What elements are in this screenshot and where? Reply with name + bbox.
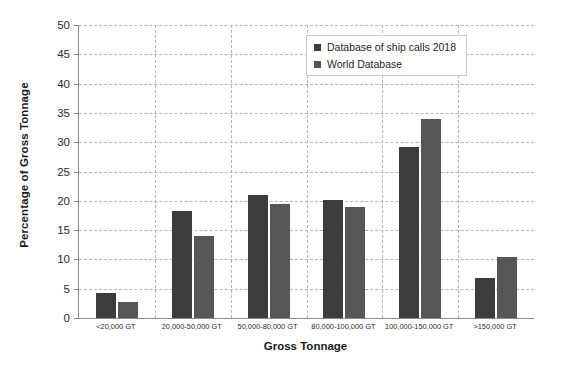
y-axis-tick-label: 0 [64,312,79,324]
legend-swatch-icon [314,44,321,51]
y-axis-tick-label: 15 [57,224,79,236]
bar-group [231,25,307,318]
bar-group [458,25,534,318]
legend-label: Database of ship calls 2018 [327,41,456,53]
bar-group [155,25,231,318]
x-axis-tick-label: >150,000 GT [457,322,533,331]
legend-label: World Database [327,58,402,70]
y-axis-tick-label: 45 [57,48,79,60]
x-axis-tick-label: 100,000-150,000 GT [381,322,457,331]
x-axis-tick-label: 80,000-100,000 GT [305,322,381,331]
bar [96,293,116,318]
y-axis-title: Percentage of Gross Tonnage [14,0,34,330]
y-axis-tick-label: 25 [57,166,79,178]
bar [399,147,419,318]
bar [194,236,214,318]
x-axis-title: Gross Tonnage [78,340,533,352]
chart-legend: Database of ship calls 2018World Databas… [306,35,467,76]
bar [345,207,365,318]
y-axis-tick-label: 5 [64,283,79,295]
y-axis-tick-label: 40 [57,78,79,90]
legend-swatch-icon [314,61,321,68]
y-axis-tick-label: 50 [57,19,79,31]
x-axis-tick-label: 50,000-80,000 GT [230,322,306,331]
y-axis-tick-label: 20 [57,195,79,207]
bar [497,257,517,318]
bar [172,211,192,318]
x-axis-tick-label: 20,000-50,000 GT [154,322,230,331]
bar [248,195,268,318]
x-axis-tick-labels: <20,000 GT20,000-50,000 GT50,000-80,000 … [78,322,533,331]
bar [270,204,290,318]
legend-item: World Database [314,58,456,70]
bar [323,200,343,318]
y-axis-tick-label: 30 [57,136,79,148]
bar-group [79,25,155,318]
bar [118,302,138,318]
bar [475,278,495,318]
bar-chart: Percentage of Gross Tonnage 051015202530… [0,0,565,374]
y-axis-tick-label: 35 [57,107,79,119]
y-axis-tick-label: 10 [57,253,79,265]
legend-item: Database of ship calls 2018 [314,41,456,53]
y-axis-title-text: Percentage of Gross Tonnage [18,82,30,247]
x-axis-tick-label: <20,000 GT [78,322,154,331]
bar [421,119,441,318]
